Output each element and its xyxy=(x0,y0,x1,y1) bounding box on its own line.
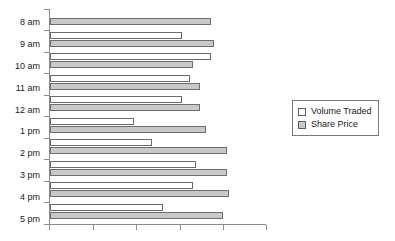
plot-area xyxy=(50,9,266,224)
category-axis-tick xyxy=(44,73,49,74)
bar-share-price xyxy=(50,212,223,219)
bar-share-price xyxy=(50,126,206,133)
legend-item-label: Share Price xyxy=(311,119,358,130)
bar-volume-traded xyxy=(50,96,182,103)
bar-share-price xyxy=(50,190,229,197)
category-axis-label: 4 pm xyxy=(0,192,40,202)
category-axis-tick xyxy=(44,30,49,31)
value-axis-tick xyxy=(266,225,267,230)
bar-volume-traded xyxy=(50,53,211,60)
chart-legend: Volume Traded Share Price xyxy=(292,100,379,136)
legend-swatch-icon xyxy=(298,108,306,116)
bar-volume-traded xyxy=(50,32,182,39)
bar-volume-traded xyxy=(50,139,152,146)
category-axis-tick xyxy=(44,9,49,10)
category-axis-labels: 8 am 9 am 10 am 11 am 12 am 1 pm 2 pm 3 … xyxy=(0,8,44,224)
value-axis-tick xyxy=(223,225,224,230)
value-axis-tick xyxy=(49,225,50,230)
value-axis-tick xyxy=(93,225,94,230)
category-axis-tick xyxy=(44,202,49,203)
category-axis-tick xyxy=(44,159,49,160)
bar-share-price xyxy=(50,83,200,90)
value-axis-tick xyxy=(136,225,137,230)
category-axis-tick xyxy=(44,52,49,53)
category-axis-label: 10 am xyxy=(0,61,40,71)
category-axis-label: 1 pm xyxy=(0,126,40,136)
bar-share-price xyxy=(50,18,211,25)
category-axis-label: 8 am xyxy=(0,17,40,27)
bar-share-price xyxy=(50,40,214,47)
legend-item-volume-traded: Volume Traded xyxy=(298,105,372,118)
category-axis-tick xyxy=(44,138,49,139)
bar-share-price xyxy=(50,147,227,154)
category-axis-label: 9 am xyxy=(0,39,40,49)
bar-volume-traded xyxy=(50,182,193,189)
legend-swatch-icon xyxy=(298,121,306,129)
category-axis-tick xyxy=(44,95,49,96)
category-axis-label: 5 pm xyxy=(0,214,40,224)
bar-volume-traded xyxy=(50,118,134,125)
bar-volume-traded xyxy=(50,75,190,82)
bar-volume-traded xyxy=(50,204,163,211)
category-axis-label: 11 am xyxy=(0,83,40,93)
category-axis-tick xyxy=(44,116,49,117)
legend-item-label: Volume Traded xyxy=(311,106,372,117)
bar-share-price xyxy=(50,104,200,111)
category-axis-line xyxy=(49,224,266,225)
category-axis-tick xyxy=(44,181,49,182)
bar-share-price xyxy=(50,61,193,68)
value-axis-tick xyxy=(180,225,181,230)
category-axis-label: 3 pm xyxy=(0,170,40,180)
category-axis-label: 12 am xyxy=(0,105,40,115)
bar-chart: 8 am 9 am 10 am 11 am 12 am 1 pm 2 pm 3 … xyxy=(0,0,395,241)
category-axis-label: 2 pm xyxy=(0,148,40,158)
bar-share-price xyxy=(50,169,227,176)
bar-volume-traded xyxy=(50,161,196,168)
legend-item-share-price: Share Price xyxy=(298,118,372,131)
